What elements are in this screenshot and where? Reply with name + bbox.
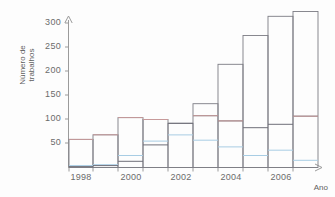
bar-2001 bbox=[168, 123, 193, 167]
y-tick-label-300: 300 bbox=[35, 17, 61, 27]
y-tick-label-100: 100 bbox=[35, 113, 61, 123]
bar-1998 bbox=[93, 135, 118, 168]
y-axis bbox=[65, 16, 72, 168]
x-axis-title: Ano bbox=[314, 183, 328, 192]
y-tick-label-150: 150 bbox=[35, 89, 61, 99]
blue-segment-dividers bbox=[69, 135, 318, 166]
bar-2002 bbox=[193, 104, 218, 168]
gray-segment-dividers bbox=[69, 116, 318, 167]
chart-screenshot: 50 100 150 200 250 300 1998 2000 2002 20… bbox=[0, 0, 335, 197]
red-segment-dividers bbox=[69, 116, 318, 140]
y-axis-ticks bbox=[65, 23, 69, 143]
y-tick-label-250: 250 bbox=[35, 41, 61, 51]
x-tick-label-2000: 2000 bbox=[114, 172, 148, 182]
x-tick-label-2002: 2002 bbox=[164, 172, 198, 182]
bar-2004 bbox=[243, 36, 268, 168]
x-tick-label-1998: 1998 bbox=[64, 172, 98, 182]
x-tick-label-2004: 2004 bbox=[214, 172, 248, 182]
y-tick-label-50: 50 bbox=[35, 137, 61, 147]
bar-2005 bbox=[268, 16, 293, 167]
chart-plot-area: 50 100 150 200 250 300 1998 2000 2002 20… bbox=[0, 0, 335, 197]
y-axis-title: Número de trabalhos bbox=[18, 30, 36, 100]
bar-1997 bbox=[69, 139, 93, 167]
bar-1999 bbox=[118, 118, 143, 168]
x-tick-label-2006: 2006 bbox=[264, 172, 298, 182]
bar-2003 bbox=[218, 64, 243, 167]
x-axis-ticks bbox=[69, 168, 293, 172]
bar-2006 bbox=[293, 12, 318, 168]
bar-2000 bbox=[143, 120, 168, 168]
bar-series bbox=[69, 12, 318, 168]
y-tick-label-200: 200 bbox=[35, 65, 61, 75]
